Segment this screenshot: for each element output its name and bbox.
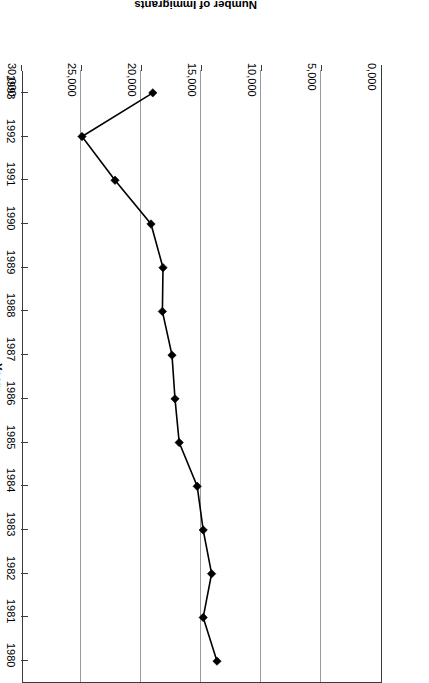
- data-point-marker: [199, 613, 207, 621]
- data-point-marker: [175, 438, 183, 446]
- data-point-marker: [159, 264, 167, 272]
- data-point-marker: [158, 307, 166, 315]
- category-axis-title: Year: [0, 363, 4, 387]
- series-line: [82, 93, 217, 661]
- rotated-figure-container: 0,0005,00010,00015,00020,00025,00030,000…: [0, 0, 429, 683]
- data-point-marker: [193, 482, 201, 490]
- data-point-marker: [149, 89, 157, 97]
- data-point-marker: [171, 395, 179, 403]
- chart-canvas: 0,0005,00010,00015,00020,00025,00030,000…: [0, 0, 429, 683]
- data-point-marker: [207, 570, 215, 578]
- data-point-marker: [168, 351, 176, 359]
- data-point-marker: [213, 657, 221, 665]
- series-layer: [0, 0, 429, 683]
- value-axis-title: Number of Immigrants: [134, 0, 257, 11]
- data-point-marker: [199, 526, 207, 534]
